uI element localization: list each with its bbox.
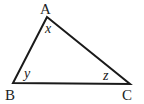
vertex-label-a: A bbox=[40, 1, 51, 17]
vertex-label-c: C bbox=[122, 87, 132, 103]
triangle-diagram: A B C x y z bbox=[0, 0, 144, 104]
angle-label-y: y bbox=[22, 66, 31, 81]
angle-label-z: z bbox=[102, 68, 109, 83]
angle-label-x: x bbox=[44, 21, 52, 36]
triangle-abc bbox=[13, 17, 130, 84]
vertex-label-b: B bbox=[5, 87, 15, 103]
